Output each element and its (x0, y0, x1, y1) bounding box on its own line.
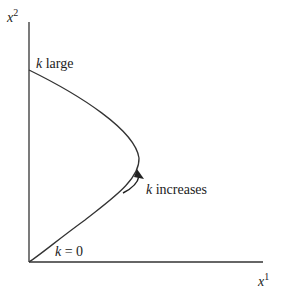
arrowhead-icon (134, 169, 144, 179)
k-large-label: k large (36, 57, 73, 71)
k-zero-label: k = 0 (55, 245, 83, 259)
x-axis-label: x1 (258, 272, 269, 289)
k-increases-label: k increases (146, 183, 207, 197)
diagram-canvas (0, 0, 281, 290)
y-axis-label: x2 (7, 8, 18, 25)
parabola-curve (29, 70, 139, 262)
